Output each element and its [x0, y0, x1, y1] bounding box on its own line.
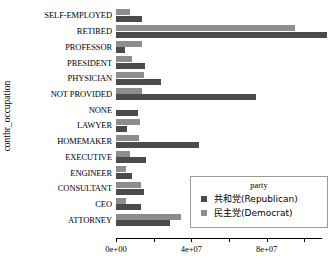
- bar: [116, 198, 126, 204]
- bar: [116, 41, 142, 47]
- y-axis-tick-label: SELF-EMPLOYED: [12, 11, 112, 20]
- y-axis-tick-label: NOT PROVIDED: [12, 90, 112, 99]
- bar: [116, 182, 141, 188]
- legend-swatch-icon: [200, 195, 208, 203]
- bar: [116, 110, 138, 116]
- y-axis-tick-label: ATTORNEY: [12, 216, 112, 225]
- bar: [116, 9, 130, 15]
- x-axis-tick: [154, 238, 155, 242]
- legend-title: party: [191, 180, 327, 190]
- bar: [116, 151, 130, 157]
- bar: [116, 32, 327, 38]
- x-axis-tick: [191, 238, 192, 242]
- legend-entry-label: 民主党(Democrat): [214, 206, 292, 219]
- bar: [116, 135, 139, 141]
- x-axis-tick-label: 4e+07: [181, 244, 202, 254]
- legend-swatch-icon: [200, 209, 208, 217]
- y-axis-tick-label: HOMEMAKER: [12, 137, 112, 146]
- legend-entry[interactable]: 民主党(Democrat): [191, 206, 327, 219]
- y-axis-tick-label: EXECUTIVE: [12, 153, 112, 162]
- y-axis-tick-label: LAWYER: [12, 121, 112, 130]
- x-axis-tick: [267, 238, 268, 242]
- x-axis-tick-label: 8e+07: [256, 244, 277, 254]
- bar: [116, 79, 161, 85]
- bar: [116, 214, 181, 220]
- x-axis-line: [116, 238, 322, 239]
- x-axis-tick-label: 0e+00: [105, 244, 126, 254]
- y-axis-tick-label: CEO: [12, 200, 112, 209]
- y-axis-tick-label: ENGINEER: [12, 169, 112, 178]
- bar: [116, 72, 144, 78]
- bar: [116, 47, 125, 53]
- legend-entry[interactable]: 共和党(Republican): [191, 192, 327, 205]
- bar: [116, 16, 142, 22]
- y-axis-title-label: contbr_occupation: [2, 81, 12, 152]
- x-axis-tick: [229, 238, 230, 242]
- y-axis-tick-label: NONE: [12, 106, 112, 115]
- bar: [116, 142, 199, 148]
- bar: [116, 220, 170, 226]
- bar: [116, 189, 144, 195]
- bar: [116, 119, 140, 125]
- bar: [116, 94, 256, 100]
- bar: [116, 157, 146, 163]
- y-axis-tick-label: CONSULTANT: [12, 184, 112, 193]
- x-axis-tick: [304, 238, 305, 242]
- legend-entries: 共和党(Republican)民主党(Democrat): [191, 192, 327, 219]
- x-axis-tick: [116, 238, 117, 242]
- bar: [116, 56, 132, 62]
- y-axis-tick-label: PRESIDENT: [12, 59, 112, 68]
- bar: [116, 126, 127, 132]
- legend: party 共和党(Republican)民主党(Democrat): [190, 176, 328, 228]
- y-axis-tick-label: PHYSICIAN: [12, 74, 112, 83]
- y-axis-tick-label: PROFESSOR: [12, 43, 112, 52]
- bar: [116, 25, 295, 31]
- bar: [116, 88, 142, 94]
- bar: [116, 166, 126, 172]
- legend-entry-label: 共和党(Republican): [214, 192, 298, 205]
- y-axis-category-labels: SELF-EMPLOYEDRETIREDPROFESSORPRESIDENTPH…: [14, 8, 114, 228]
- bar: [116, 63, 145, 69]
- y-axis-tick-label: RETIRED: [12, 27, 112, 36]
- bar: [116, 173, 132, 179]
- bar: [116, 204, 141, 210]
- bar-chart: contbr_occupation SELF-EMPLOYEDRETIREDPR…: [0, 0, 332, 272]
